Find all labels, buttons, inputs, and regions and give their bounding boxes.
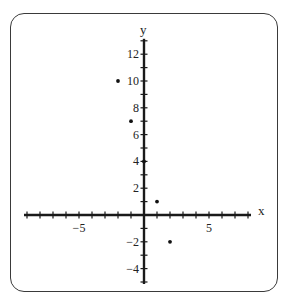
scatter-plot: −5512108642−2−4 x y [0,0,288,302]
data-point [168,240,172,244]
y-tick-label: 4 [133,154,139,168]
data-point [116,79,120,83]
x-tick-label: 5 [206,221,212,235]
y-tick-label: 2 [133,181,139,195]
data-point [129,119,133,123]
y-tick-label: 8 [133,101,139,115]
x-axis-label: x [258,203,265,218]
y-tick-label: −4 [126,262,139,276]
y-axis-label: y [140,22,147,37]
y-tick-label: 6 [133,128,139,142]
data-point [155,200,159,204]
y-tick-label: 12 [127,47,139,61]
y-tick-label: 10 [127,74,139,88]
data-point [142,160,146,164]
x-tick-label: −5 [73,221,86,235]
y-tick-label: −2 [126,235,139,249]
